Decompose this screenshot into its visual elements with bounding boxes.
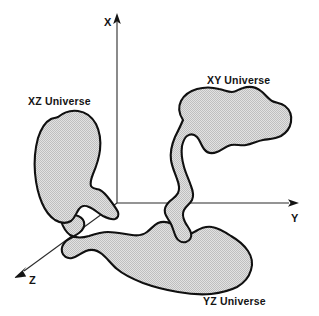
z-axis-label: Z	[29, 274, 36, 286]
yz-universe-label: YZ Universe	[203, 295, 266, 307]
y-axis-label: Y	[291, 212, 299, 224]
xy-universe-label: XY Universe	[207, 74, 270, 86]
x-axis-label: X	[104, 16, 112, 28]
diagram-canvas: X Y Z XZ Universe XY Universe YZ Univers…	[0, 0, 319, 316]
three-universes-diagram: X Y Z XZ Universe XY Universe YZ Univers…	[0, 0, 319, 316]
xz-universe-label: XZ Universe	[28, 95, 91, 107]
